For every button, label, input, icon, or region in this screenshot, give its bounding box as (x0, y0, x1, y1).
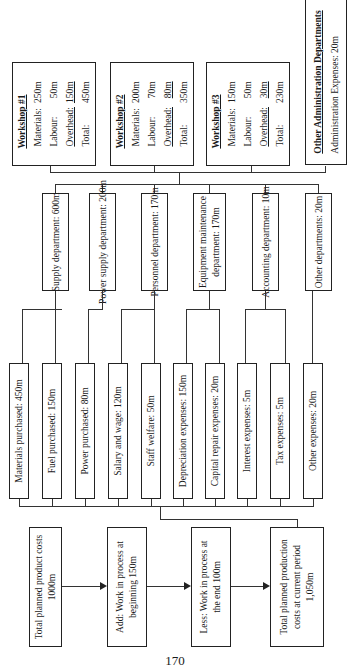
expense-depreciation: Depreciation expenses: 150m (173, 363, 193, 499)
connector (154, 309, 155, 363)
connector (19, 499, 20, 506)
connector (265, 291, 266, 309)
workshop-1-table: Materials:250m Labour:50m Overhead:150m … (30, 79, 94, 148)
workshop-1-title: Workshop #1 (14, 79, 30, 148)
connector (219, 309, 220, 363)
expense-power: Power purchased: 80m (75, 363, 95, 499)
dept-label: Supply department: 600m (49, 193, 62, 292)
expense-label: Tax expenses: 5m (274, 397, 287, 465)
dept-power-supply: Power supply department: 200m (89, 193, 116, 291)
workshop-2-table: Materials:200m Labour:70m Overhead:80m T… (128, 79, 192, 148)
dept-personnel: Personnel department: 170m (141, 193, 168, 291)
arrow-head-icon (184, 582, 191, 590)
connector (52, 499, 53, 506)
flow-line: the end 100m (211, 541, 224, 634)
expense-tax: Tax expenses: 5m (270, 363, 290, 499)
value: 50m (240, 79, 256, 105)
connector (118, 499, 119, 506)
flow-line: Add: Work in process at (114, 541, 127, 633)
value: 50m (46, 79, 62, 105)
dept-label: Other departments: 20m (312, 196, 325, 288)
connector (151, 499, 152, 506)
value: 70m (144, 79, 160, 105)
expense-label: Fuel purchased: 150m (46, 389, 59, 473)
connector (186, 309, 219, 310)
connector (88, 309, 89, 363)
flow-line: Less: Work in process at (198, 541, 211, 634)
connector (179, 172, 180, 184)
connector (50, 172, 326, 173)
connector (209, 184, 210, 193)
connector (85, 499, 86, 506)
flow-total-planned-product-costs: Total planned product costs1000m (29, 527, 62, 647)
label: Total: (78, 105, 94, 149)
label: Overhead: (62, 105, 78, 149)
connector (22, 309, 23, 363)
connector (55, 309, 56, 363)
connector (22, 309, 62, 310)
value: 250m (30, 79, 46, 105)
dept-label: Accounting department: 10m (259, 186, 272, 297)
label: Overhead: (256, 105, 272, 149)
connector (297, 519, 298, 527)
expense-label: Capital repair expenses: 20m (209, 376, 222, 487)
dept-accounting: Accounting department: 10m (252, 193, 279, 291)
expense-label: Power purchased: 80m (79, 387, 92, 474)
connector (318, 184, 319, 193)
arrow-head-icon (263, 582, 270, 590)
connector (312, 291, 313, 363)
label: Total: (272, 105, 288, 149)
connector (55, 291, 56, 309)
arrow-line (147, 586, 185, 587)
arrow-line (62, 586, 102, 587)
expense-materials: Materials purchased: 450m (9, 363, 29, 499)
connector (209, 291, 210, 309)
connector (245, 309, 285, 310)
value: 350m (176, 79, 192, 105)
connector (285, 309, 286, 363)
label: Materials: (128, 105, 144, 149)
expense-salary: Salary and wage: 120m (108, 363, 128, 499)
value: 150m (224, 79, 240, 105)
expense-label: Other expenses: 20m (307, 391, 320, 471)
dept-supply: Supply department: 600m (42, 193, 69, 291)
flow-line: 1,050m (303, 539, 316, 634)
dept-equipment-maintenance: Equipment maintenancedepartment: 170m (193, 193, 226, 291)
connector (88, 309, 103, 310)
admin-title: Other Administration Departments (309, 10, 327, 153)
dept-label: Power supply department: 200m (96, 180, 109, 304)
connector (280, 499, 281, 506)
expense-label: Interest expenses: 5m (241, 390, 254, 472)
connector (19, 506, 314, 507)
connector (121, 309, 155, 310)
label: Overhead: (160, 105, 176, 149)
value: 230m (272, 79, 288, 105)
dept-label: Equipment maintenance (197, 196, 210, 288)
flow-less-wip-end: Less: Work in process atthe end 100m (191, 527, 231, 647)
arrow-line (231, 586, 264, 587)
dept-label-line2: department: 170m (210, 196, 223, 288)
workshop-2-title: Workshop #2 (112, 79, 128, 148)
dept-label: Personnel department: 170m (148, 187, 161, 296)
value: 450m (78, 79, 94, 105)
connector (186, 309, 187, 363)
label: Labour: (46, 105, 62, 149)
flow-total-planned-production-costs: Total planned productioncosts at current… (270, 527, 324, 647)
workshop-3-title: Workshop #3 (208, 79, 224, 148)
admin-expenses: Administration Expenses: 20m (327, 10, 343, 153)
connector (247, 499, 248, 506)
value: 150m (62, 79, 78, 105)
admin-box: Other Administration Departments Adminis… (305, 0, 347, 165)
connector (55, 184, 318, 185)
connector (313, 499, 314, 506)
expense-interest: Interest expenses: 5m (237, 363, 257, 499)
dept-other: Other departments: 20m (305, 193, 332, 291)
workshop-1-box: Workshop #1 Materials:250m Labour:50m Ov… (12, 62, 96, 166)
value: 200m (128, 79, 144, 105)
label: Total: (176, 105, 192, 149)
page-number: 170 (155, 653, 195, 669)
connector (160, 506, 161, 519)
workshop-3-table: Materials:150m Labour:50m Overhead:30m T… (224, 79, 288, 148)
expense-fuel: Fuel purchased: 150m (42, 363, 62, 499)
connector (245, 309, 246, 363)
